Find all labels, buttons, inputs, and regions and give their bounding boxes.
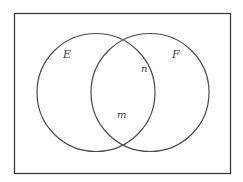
set-e-label: E: [62, 48, 71, 61]
universe-rectangle: [15, 14, 231, 174]
point-m-label: m: [117, 109, 126, 120]
point-n-label: n: [141, 63, 147, 74]
venn-diagram: E F n m: [0, 0, 243, 182]
set-f-label: F: [171, 48, 180, 61]
set-e-circle: [37, 34, 155, 152]
set-f-circle: [91, 34, 209, 152]
